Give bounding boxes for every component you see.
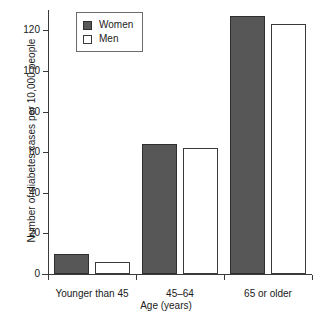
y-tick-label: 120 xyxy=(4,25,40,35)
x-tick xyxy=(312,275,313,280)
legend-swatch-women-icon xyxy=(83,21,92,30)
legend-swatch-men-icon xyxy=(83,35,92,44)
x-axis-title: Age (years) xyxy=(0,300,332,311)
x-group-label: 45–64 xyxy=(136,288,224,299)
bar-men-2 xyxy=(271,24,306,274)
y-tick-label: 0 xyxy=(4,269,40,279)
x-group-label: Younger than 45 xyxy=(48,288,136,299)
legend-item-women: Women xyxy=(83,18,133,32)
y-tick xyxy=(43,233,48,234)
y-tick-label: 100 xyxy=(4,66,40,76)
bar-women-0 xyxy=(54,254,89,274)
x-tick xyxy=(224,275,225,280)
legend-label-women: Women xyxy=(99,20,133,30)
legend: Women Men xyxy=(76,12,143,52)
x-group-label: 65 or older xyxy=(224,288,312,299)
y-tick-label: 80 xyxy=(4,107,40,117)
x-tick xyxy=(48,275,49,280)
y-tick-label: 40 xyxy=(4,188,40,198)
y-tick-label: 20 xyxy=(4,228,40,238)
bar-chart: Number of diabetes cases per 10,000 peop… xyxy=(0,0,332,322)
x-tick xyxy=(136,275,137,280)
y-tick xyxy=(43,30,48,31)
y-tick xyxy=(43,112,48,113)
bar-men-0 xyxy=(95,262,130,274)
y-tick xyxy=(43,71,48,72)
bar-women-2 xyxy=(230,16,265,274)
x-axis-line xyxy=(42,274,312,275)
bar-men-1 xyxy=(183,148,218,274)
bar-women-1 xyxy=(142,144,177,274)
legend-label-men: Men xyxy=(99,34,118,44)
legend-item-men: Men xyxy=(83,32,133,46)
y-tick xyxy=(43,152,48,153)
y-tick xyxy=(43,193,48,194)
y-axis-line xyxy=(48,10,49,275)
y-tick-label: 60 xyxy=(4,147,40,157)
